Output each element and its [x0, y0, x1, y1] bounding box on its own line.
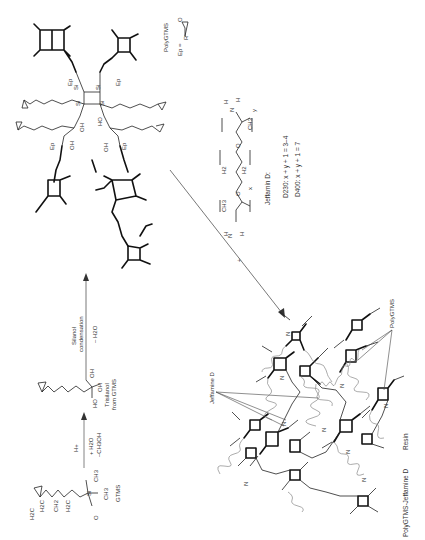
gtms-atom: O [93, 515, 99, 520]
polygtms-si: Si [99, 101, 105, 106]
resin-nitrogen: N [345, 450, 351, 454]
jeffamine-atom: H [223, 232, 229, 236]
trisilanol-label: Trisilanol [104, 383, 110, 407]
polygtms-ep: Ep [49, 142, 55, 150]
polygtms-si: Si [95, 85, 101, 90]
ep-definition: Ep = R O [177, 17, 189, 56]
gtms-atom: CH3 [103, 487, 109, 500]
jeffamine-atom: H2 [241, 166, 247, 174]
resin-polygtms-label: PolyGTMS [389, 299, 395, 328]
gtms-silicon: Si [86, 491, 92, 496]
polygtms-oh: OH [103, 143, 109, 152]
jeffamine-atom: H [235, 98, 241, 102]
resin-caption: PolyGTMS-Jeffamine D [402, 469, 410, 537]
polygtms-structure: Si Si Si Si Ep Ep OH HO OH Ep OH Ep Poly… [16, 23, 169, 268]
resin-nitrogen: N [243, 482, 249, 486]
polygtms-ep: Ep [121, 142, 127, 150]
resin-caption-label: Resin [402, 433, 409, 450]
jeffamine-atom: H [223, 100, 229, 104]
polygtms-oh: OH [69, 141, 75, 150]
polygtms-si: Si [75, 101, 81, 106]
resin-jeffamine-label: Jeffamine D [209, 371, 215, 404]
jeffamine-subscript: y [251, 109, 257, 112]
hydrolysis-arrow: H+ + H2O –CH3OH [73, 412, 102, 468]
ep-definition-label: Ep = [177, 43, 183, 56]
resin-nitrogen: N [383, 404, 389, 408]
jeffamine-atom: O [235, 143, 241, 148]
arrow1-catalyst: H+ [73, 444, 79, 452]
resin-nitrogen: N [281, 422, 287, 426]
jeffamine-structure: N H H CH3 O H2 H2 O CH3 N H H x y + Jeff… [220, 98, 302, 262]
polygtms-ep: Ep [67, 78, 73, 86]
polygtms-ho: HO [97, 117, 103, 126]
resin-network: N N N N N N N N N Jeffamine D PolyGTMS P… [209, 299, 410, 537]
trisilanol-molecule: OH OH HO Trisilanol from GTMS [38, 369, 117, 410]
condensation-arrow: Silanol condensation – H2O [71, 273, 98, 380]
jeffamine-subscript: x [247, 187, 253, 190]
polygtms-si: Si [73, 85, 79, 90]
trisilanol-ho: HO [92, 399, 98, 408]
trisilanol-oh: OH [97, 383, 103, 392]
resin-nitrogen: N [339, 384, 345, 388]
gtms-label: GTMS [115, 485, 121, 502]
polygtms-label: PolyGTMS [163, 23, 169, 52]
gtms-atom: CH3 [93, 469, 99, 482]
arrow1-reagent: + H2O [88, 437, 94, 455]
polygtms-oh: OH [79, 123, 85, 132]
resin-nitrogen: N [285, 332, 291, 336]
arrow2-label: condensation [78, 316, 84, 352]
arrowhead-icon [83, 273, 89, 281]
trisilanol-source: from GTMS [111, 379, 117, 410]
jeffamine-name: Jeffamin D: [264, 172, 271, 205]
polygtms-ep: Ep [115, 78, 121, 86]
jeffamine-d230: D230: x + y + 1 = 3–4 [282, 135, 290, 198]
reaction-scheme: H2C H2C CH2 H2C Si O CH3 CH3 GTMS H+ [0, 0, 425, 540]
arrow2-byproduct: – H2O [92, 325, 98, 343]
gtms-molecule: H2C H2C CH2 H2C Si O CH3 CH3 GTMS [29, 469, 121, 520]
jeffamine-atom: CH3 [247, 117, 253, 130]
arrow2-label: Silanol [71, 327, 77, 345]
gtms-atom: H2C [29, 507, 35, 520]
gtms-atom: CH2 [53, 499, 59, 512]
ep-oxygen: O [177, 17, 183, 22]
jeffamine-atom: H2 [221, 166, 227, 174]
gtms-atom: H2C [39, 499, 45, 512]
trisilanol-oh: OH [89, 369, 95, 378]
jeffamine-atom: CH3 [221, 199, 227, 212]
jeffamine-atom: N [229, 108, 235, 112]
resin-nitrogen: N [279, 376, 285, 380]
ep-r-group: R [183, 35, 189, 40]
jeffamine-atom: O [235, 191, 241, 196]
resin-nitrogen: N [321, 428, 327, 432]
jeffamine-atom: H [239, 232, 245, 236]
resin-nitrogen: N [361, 478, 367, 482]
gtms-atom: H2C [65, 499, 71, 512]
jeffamine-d400: D400: x + y + 1 = 7 [294, 142, 302, 197]
arrowhead-icon [81, 412, 87, 420]
arrow1-byproduct: –CH3OH [96, 433, 102, 457]
